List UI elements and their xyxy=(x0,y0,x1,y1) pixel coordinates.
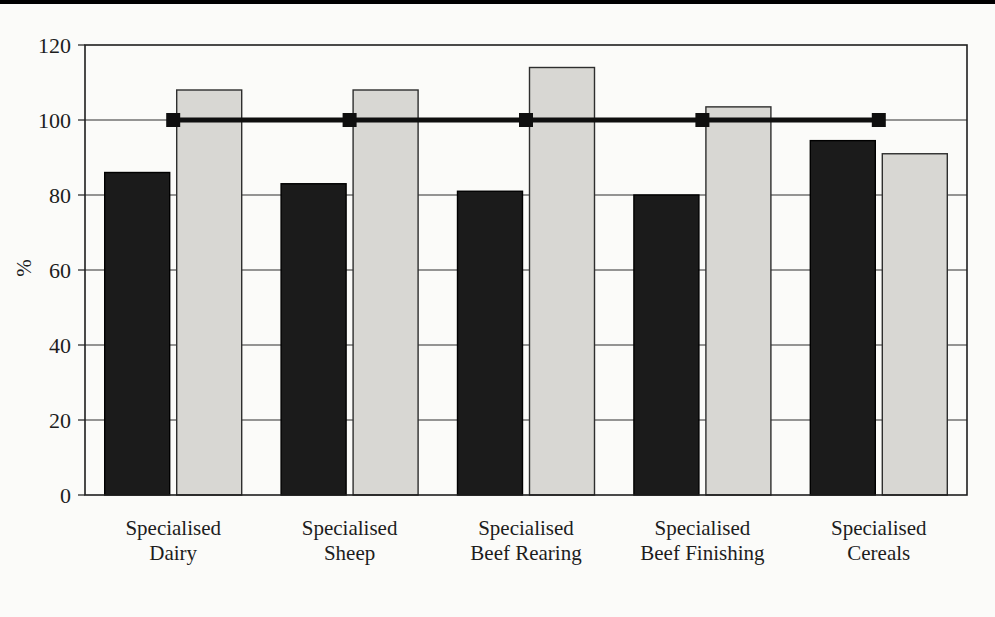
y-tick-label-0: 0 xyxy=(60,483,71,508)
bar-dark-bars-3 xyxy=(634,195,699,495)
x-category-label-1-line1: Specialised xyxy=(302,516,398,540)
y-tick-label-80: 80 xyxy=(49,183,71,208)
bar-light-bars-4 xyxy=(882,154,947,495)
x-category-label-2-line2: Beef Rearing xyxy=(470,541,582,565)
x-category-label-0-line1: Specialised xyxy=(125,516,221,540)
bar-dark-bars-0 xyxy=(105,173,170,496)
x-category-label-0-line2: Dairy xyxy=(149,541,197,565)
bar-dark-bars-2 xyxy=(458,191,523,495)
bar-light-bars-3 xyxy=(706,107,771,495)
reference-marker-4 xyxy=(872,113,886,127)
bar-chart: 020406080100120%SpecialisedDairySpeciali… xyxy=(0,0,995,617)
y-axis-label: % xyxy=(12,259,36,277)
bar-light-bars-1 xyxy=(353,90,418,495)
bar-dark-bars-4 xyxy=(810,141,875,495)
reference-marker-0 xyxy=(166,113,180,127)
y-tick-label-100: 100 xyxy=(38,108,71,133)
reference-marker-3 xyxy=(695,113,709,127)
figure: 020406080100120%SpecialisedDairySpeciali… xyxy=(0,0,995,617)
x-category-label-4-line2: Cereals xyxy=(847,541,910,565)
bar-dark-bars-1 xyxy=(281,184,346,495)
x-category-label-3-line2: Beef Finishing xyxy=(640,541,765,565)
y-tick-label-120: 120 xyxy=(38,33,71,58)
x-category-label-4-line1: Specialised xyxy=(831,516,927,540)
y-tick-label-20: 20 xyxy=(49,408,71,433)
x-category-label-2-line1: Specialised xyxy=(478,516,574,540)
reference-marker-2 xyxy=(519,113,533,127)
reference-marker-1 xyxy=(343,113,357,127)
bar-light-bars-0 xyxy=(177,90,242,495)
x-category-label-1-line2: Sheep xyxy=(324,541,375,565)
y-tick-label-60: 60 xyxy=(49,258,71,283)
y-tick-label-40: 40 xyxy=(49,333,71,358)
bar-light-bars-2 xyxy=(530,68,595,496)
x-category-label-3-line1: Specialised xyxy=(655,516,751,540)
